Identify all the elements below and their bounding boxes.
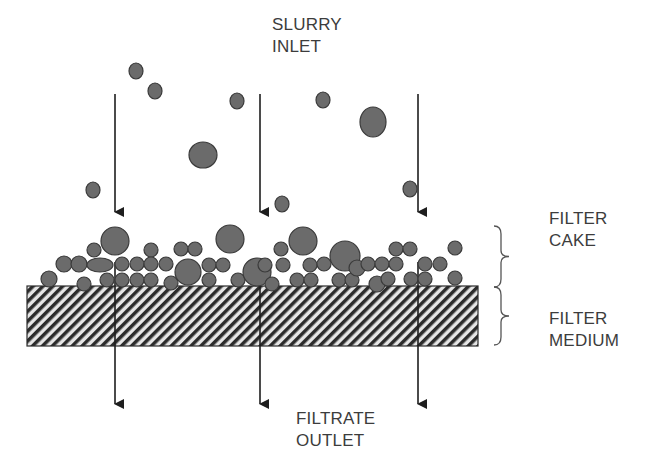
particle [360,107,386,137]
particle [317,257,331,271]
particle [144,243,158,257]
particle [174,242,188,256]
particle [275,196,289,212]
particle [129,63,143,79]
filter-cake-particles [41,225,462,292]
particle [276,258,290,272]
particle [188,242,202,256]
particle [115,273,129,287]
particle [87,258,113,272]
filter-cake-line1: FILTER [549,208,608,230]
particle [175,259,201,285]
medium-brace-icon [494,287,509,345]
particle [375,257,389,271]
particle [100,273,114,287]
particle [56,256,72,272]
filter-medium [27,286,478,346]
particle [230,93,244,109]
braces [494,226,509,345]
filtrate-outlet-label: FILTRATE OUTLET [296,408,375,452]
filtrate-outlet-line1: FILTRATE [296,408,375,430]
particle [216,225,244,253]
particle [381,272,395,286]
particle [304,273,318,287]
particle [77,277,91,291]
particle [448,241,462,255]
filter-medium-line2: MEDIUM [549,330,619,352]
particle [265,277,279,291]
particle [403,181,417,197]
filter-medium-block [27,286,478,346]
particle [389,242,403,256]
particle [433,257,447,271]
particle [144,273,158,287]
particle [41,271,57,287]
particle [332,273,346,287]
particle [144,257,158,271]
particle [71,256,87,272]
filter-medium-label: FILTER MEDIUM [549,308,619,352]
filter-cake-label: FILTER CAKE [549,208,608,252]
particle [115,257,129,271]
particle [418,257,432,271]
slurry-inlet-line2: INLET [272,36,342,58]
particle [216,258,230,272]
particle [101,227,129,255]
particle [316,92,330,108]
particle [87,243,101,257]
particle [361,257,375,271]
particle [403,242,417,256]
cake-brace-icon [494,226,509,287]
suspended-particles [86,63,417,212]
particle [303,258,317,272]
particle [130,257,144,271]
particle [130,273,144,287]
slurry-inlet-label: SLURRY INLET [272,14,342,58]
cake-filtration-diagram: SLURRY INLET FILTER CAKE FILTER MEDIUM F… [0,0,654,469]
particle [86,182,100,198]
particle [404,272,418,286]
particle [448,271,462,285]
particle [274,242,288,256]
filter-medium-line1: FILTER [549,308,619,330]
particle [258,258,272,272]
particle [189,142,217,168]
filtrate-outlet-line2: OUTLET [296,430,375,452]
slurry-inlet-line1: SLURRY [272,14,342,36]
particle [202,258,216,272]
particle [389,257,403,271]
particle [289,227,317,255]
particle [159,257,173,271]
particle [290,273,304,287]
particle [418,272,432,286]
particle [148,83,162,99]
filter-cake-line2: CAKE [549,230,608,252]
particle [202,273,216,287]
